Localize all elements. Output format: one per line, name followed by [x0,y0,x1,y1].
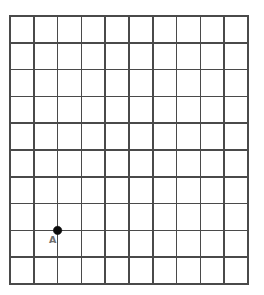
coordinate-grid: A [0,0,264,295]
plot-point-label-A: A [49,234,57,245]
figure-root: A [0,0,264,295]
